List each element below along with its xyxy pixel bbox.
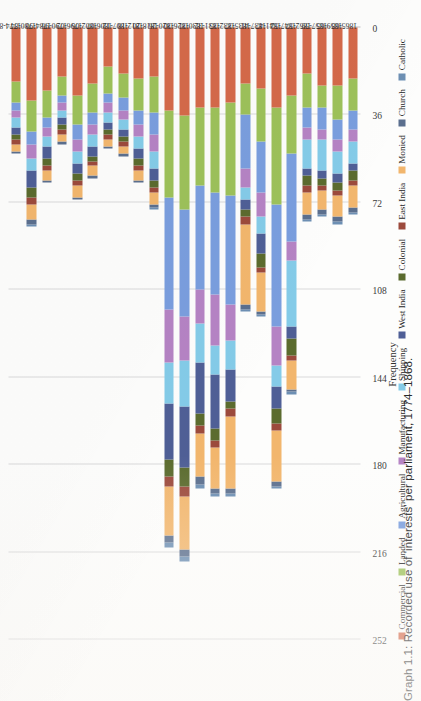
bar-segment — [210, 345, 219, 374]
bar-segment — [286, 153, 295, 240]
bar-segment — [26, 197, 35, 204]
chart: 03672108144180216252 Frequency 1774-8017… — [0, 0, 421, 701]
bar-row — [225, 27, 234, 496]
bar-segment — [103, 139, 112, 146]
tick-label-180: 180 — [364, 450, 374, 464]
bar-segment — [42, 90, 51, 117]
bar-segment — [72, 185, 81, 197]
bar-segment — [133, 170, 142, 180]
bar-segment — [195, 413, 204, 425]
bar-segment — [348, 185, 357, 207]
bar-segment — [256, 267, 265, 272]
bar-segment — [164, 197, 173, 309]
bar-segment — [72, 124, 81, 139]
bar-segment — [164, 403, 173, 459]
bar-segment — [133, 148, 142, 158]
bar-segment — [103, 93, 112, 103]
bar-segment — [271, 386, 280, 408]
bar-segment — [42, 170, 51, 180]
bar-segment — [271, 408, 280, 423]
bar-row — [72, 27, 81, 199]
plot-area — [8, 27, 360, 639]
bar-segment — [57, 110, 66, 117]
bar-segment — [87, 161, 96, 166]
bar-segment — [57, 76, 66, 95]
bar-segment — [87, 146, 96, 156]
bar-segment — [286, 326, 295, 338]
bar-segment — [179, 556, 188, 561]
bar-segment — [332, 195, 341, 217]
bar-segment — [164, 476, 173, 486]
bar-segment — [103, 102, 112, 112]
bar-segment — [332, 139, 341, 151]
bar-segment — [11, 127, 20, 134]
bar-row — [286, 27, 295, 394]
bar-segment — [332, 27, 341, 85]
bar-segment — [317, 85, 326, 107]
bar-segment — [149, 76, 158, 112]
bar-segment — [149, 112, 158, 134]
gridline-252 — [8, 638, 360, 639]
bar-segment — [317, 170, 326, 177]
bar-segment — [149, 27, 158, 76]
bar-segment — [240, 216, 249, 223]
bar-row — [57, 27, 66, 144]
bar-segment — [42, 165, 51, 170]
bar-segment — [72, 173, 81, 180]
bar-segment — [87, 124, 96, 134]
bar-segment — [26, 158, 35, 170]
bar-segment — [57, 95, 66, 102]
bar-segment — [26, 100, 35, 132]
bar-segment — [271, 423, 280, 430]
bar-segment — [195, 433, 204, 477]
bar-segment — [332, 85, 341, 119]
bar-segment — [26, 187, 35, 197]
bar-segment — [271, 27, 280, 107]
bar-segment — [195, 362, 204, 413]
bar-segment — [286, 355, 295, 360]
bar-segment — [286, 260, 295, 326]
bar-segment — [195, 425, 204, 432]
bar-segment — [348, 170, 357, 180]
bar-row — [26, 27, 35, 226]
bar-segment — [11, 144, 20, 151]
bar-segment — [164, 27, 173, 110]
bar-segment — [72, 139, 81, 151]
bar-segment — [302, 107, 311, 126]
bar-segment — [302, 175, 311, 185]
bar-segment — [225, 195, 234, 304]
bar-segment — [210, 428, 219, 440]
bar-segment — [26, 132, 35, 144]
bar-row — [256, 27, 265, 316]
bar-segment — [240, 168, 249, 187]
bar-segment — [317, 178, 326, 185]
bar-segment — [42, 27, 51, 90]
bar-segment — [149, 187, 158, 192]
bar-row — [271, 27, 280, 488]
bar-segment — [240, 83, 249, 115]
bar-segment — [240, 224, 249, 304]
tick-label-108: 108 — [364, 275, 374, 289]
bar-row — [195, 27, 204, 488]
bar-segment — [348, 129, 357, 141]
bar-segment — [256, 27, 265, 88]
tick-label-72: 72 — [364, 192, 374, 202]
bar-segment — [87, 83, 96, 112]
bar-segment — [271, 430, 280, 481]
bar-segment — [210, 294, 219, 345]
bar-segment — [133, 124, 142, 136]
bar-segment — [11, 102, 20, 109]
bar-segment — [57, 117, 66, 124]
bar-segment — [225, 401, 234, 408]
bar-segment — [118, 110, 127, 120]
bar-segment — [348, 78, 357, 110]
bar-segment — [118, 136, 127, 141]
bar-segment — [164, 362, 173, 403]
bar-segment — [149, 192, 158, 204]
bar-segment — [302, 192, 311, 214]
bar-segment — [348, 141, 357, 163]
bar-segment — [286, 241, 295, 260]
bar-segment — [103, 129, 112, 134]
bar-segment — [72, 151, 81, 163]
bar-segment — [317, 139, 326, 171]
